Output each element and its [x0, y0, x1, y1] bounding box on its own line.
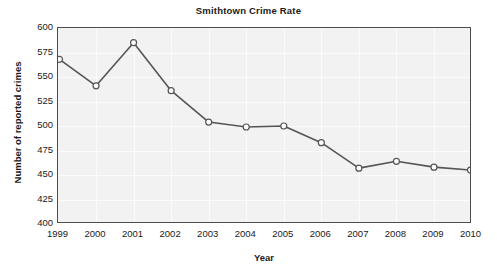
data-point-marker	[131, 40, 137, 46]
data-point-marker	[206, 119, 212, 125]
y-tick-label: 425	[19, 194, 53, 204]
y-axis-tick-labels: 400425450475500525550575600	[15, 27, 53, 223]
data-point-marker	[281, 123, 287, 129]
y-tick-label: 525	[19, 96, 53, 106]
x-axis-title: Year	[57, 252, 471, 263]
data-point-marker	[58, 56, 63, 62]
y-tick-label: 575	[19, 47, 53, 57]
data-series	[58, 28, 470, 222]
data-point-marker	[168, 88, 174, 94]
data-point-marker	[93, 83, 99, 89]
data-point-marker	[431, 164, 437, 170]
series-line	[60, 43, 471, 170]
y-tick-label: 400	[19, 218, 53, 228]
plot-inner	[58, 28, 470, 222]
chart-page: Smithtown Crime Rate Number of reported …	[0, 0, 497, 272]
data-point-marker	[393, 158, 399, 164]
y-tick-label: 600	[19, 22, 53, 32]
data-point-marker	[243, 124, 249, 130]
x-axis-tick-labels: 1999200020012002200320042005200620072008…	[57, 228, 471, 244]
data-point-marker	[318, 140, 324, 146]
y-tick-label: 475	[19, 145, 53, 155]
data-point-marker	[468, 167, 471, 173]
data-point-marker	[356, 165, 362, 171]
y-tick-label: 450	[19, 169, 53, 179]
chart-title: Smithtown Crime Rate	[0, 5, 497, 16]
plot-area	[57, 27, 471, 223]
y-tick-label: 550	[19, 71, 53, 81]
y-tick-label: 500	[19, 120, 53, 130]
x-tick-label: 2010	[449, 228, 493, 239]
